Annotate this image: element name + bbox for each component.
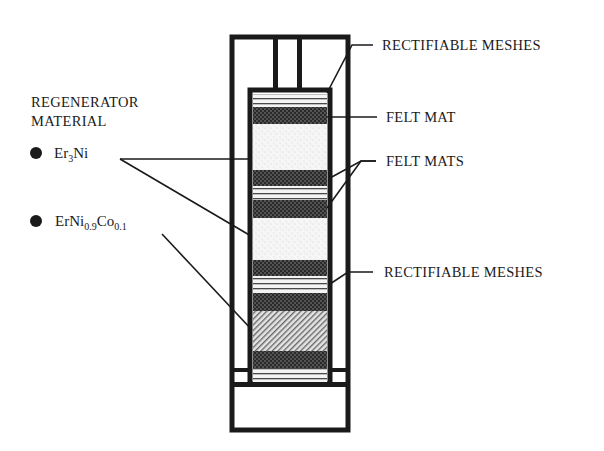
material-subscript: 0.1 — [114, 221, 127, 232]
legend-title-line2: MATERIAL — [31, 114, 139, 129]
label-felt-mats: FELT MATS — [386, 154, 464, 169]
material-erni-co: ErNi0.9Co0.1 — [55, 214, 127, 232]
material-name: Ni — [73, 145, 88, 161]
legend-title: REGENERATOR MATERIAL — [31, 95, 139, 128]
material-name: Er — [54, 145, 68, 161]
material-name: ErNi — [55, 213, 84, 229]
label-top-rectifiable-meshes: RECTIFIABLE MESHES — [382, 38, 541, 53]
inner-canister — [250, 90, 330, 384]
bullet-icon — [30, 215, 42, 227]
material-er3ni: Er3Ni — [54, 146, 88, 164]
material-name: Co — [97, 213, 115, 229]
material-subscript: 0.9 — [84, 221, 97, 232]
label-felt-mat: FELT MAT — [386, 110, 456, 125]
label-bottom-rectifiable-meshes: RECTIFIABLE MESHES — [384, 265, 543, 280]
bullet-icon — [30, 147, 42, 159]
legend-title-line1: REGENERATOR — [31, 95, 139, 110]
